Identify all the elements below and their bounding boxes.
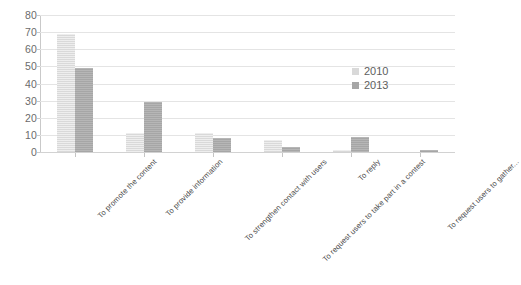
y-tick-label: 10 [3, 130, 37, 140]
legend-item-2013[interactable]: 2013 [352, 78, 422, 92]
y-tick-label: 40 [3, 79, 37, 89]
legend-label-2013: 2013 [364, 80, 388, 91]
x-axis-category-label: To provide information [164, 158, 224, 218]
x-axis-category-label: To request users to take part in a conte… [321, 158, 427, 264]
gridline [40, 15, 455, 16]
x-tick-mark [420, 153, 421, 157]
x-axis-category-label: To promote the content [96, 158, 158, 220]
bar-group [264, 15, 300, 152]
legend-label-2010: 2010 [364, 66, 388, 77]
bar-2013-2[interactable] [213, 138, 231, 152]
y-axis-labels: 01020304050607080 [0, 15, 37, 152]
gridline [40, 135, 455, 136]
bar-2010-3[interactable] [264, 140, 282, 152]
gridline [40, 49, 455, 50]
legend-swatch-2013-icon [352, 82, 359, 89]
y-tick-label: 80 [3, 10, 37, 20]
gridline [40, 101, 455, 102]
y-tick-label: 20 [3, 113, 37, 123]
y-tick-label: 60 [3, 44, 37, 54]
gridline [40, 32, 455, 33]
bar-group [195, 15, 231, 152]
bar-group [126, 15, 162, 152]
x-axis-category-label: To strengthen contact with users [244, 158, 329, 243]
bar-2010-0[interactable] [57, 34, 75, 152]
x-tick-mark [282, 153, 283, 157]
bar-2013-1[interactable] [144, 102, 162, 152]
y-tick-label: 50 [3, 61, 37, 71]
x-tick-mark [351, 153, 352, 157]
legend-item-2010[interactable]: 2010 [352, 64, 422, 78]
y-tick-label: 70 [3, 27, 37, 37]
bar-2010-2[interactable] [195, 133, 213, 152]
x-tick-mark [144, 153, 145, 157]
x-axis-category-label: To request users to gather... [447, 158, 521, 232]
gridline [40, 152, 455, 153]
y-tick-label: 0 [3, 147, 37, 157]
legend-swatch-2010-icon [352, 68, 359, 75]
bar-2013-0[interactable] [75, 68, 93, 152]
x-tick-mark [75, 153, 76, 157]
gridline [40, 118, 455, 119]
bar-2010-4[interactable] [333, 150, 351, 152]
bar-group [57, 15, 93, 152]
bar-2013-4[interactable] [351, 137, 369, 152]
bar-2013-3[interactable] [282, 147, 300, 152]
x-axis-category-label: To reply [357, 158, 382, 183]
x-tick-mark [213, 153, 214, 157]
chart-legend: 2010 2013 [352, 64, 422, 92]
bar-2013-5[interactable] [420, 150, 438, 152]
y-tick-label: 30 [3, 96, 37, 106]
bar-2010-1[interactable] [126, 133, 144, 152]
